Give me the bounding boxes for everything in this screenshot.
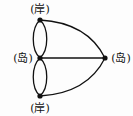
edge-mid-bottom-right	[40, 58, 47, 96]
edge-mid-bottom-left	[33, 58, 40, 96]
edge-bottom-right	[40, 58, 105, 96]
konigsberg-graph-diagram: (岸) (岛) (岸) (岛)	[0, 0, 133, 116]
label-mid: (岛)	[13, 51, 33, 65]
node-bottom	[37, 93, 42, 98]
node-top	[37, 17, 42, 22]
edge-top-right	[40, 20, 105, 58]
node-mid	[37, 55, 42, 60]
label-bottom: (岸)	[30, 102, 50, 115]
edge-top-mid-left	[33, 20, 40, 58]
graph-canvas: (岸) (岛) (岸) (岛)	[0, 0, 133, 116]
label-top: (岸)	[30, 3, 50, 16]
edge-top-mid-right	[40, 20, 47, 58]
node-right	[102, 55, 107, 60]
label-right: (岛)	[111, 51, 131, 65]
